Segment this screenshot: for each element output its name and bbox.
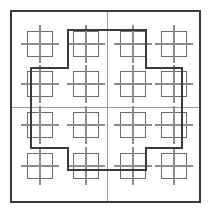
figure-canvas (0, 0, 211, 213)
pattern-diagram (0, 0, 211, 213)
